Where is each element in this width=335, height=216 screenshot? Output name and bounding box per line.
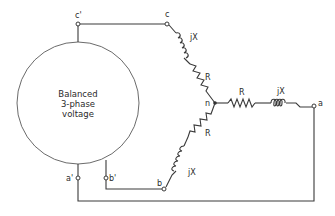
terminal-a-prime — [76, 176, 80, 180]
terminal-b-prime — [104, 176, 108, 180]
label-phase-a-jx: jX — [276, 87, 285, 96]
label-c-prime: c' — [75, 11, 82, 20]
source-label-line2: 3-phase — [61, 99, 95, 109]
label-n: n — [205, 99, 210, 108]
y-connected-load-circuit: Balanced 3-phase voltage c' c jX R n a — [0, 0, 335, 216]
label-phase-c-jx: jX — [189, 33, 198, 42]
label-b: b — [157, 179, 162, 188]
a-prime-to-a-wire — [78, 108, 314, 201]
phase-a-tail-wire — [286, 103, 312, 107]
label-phase-b-jx: jX — [187, 168, 196, 177]
terminal-b — [162, 187, 166, 191]
source-label-line1: Balanced — [58, 89, 97, 99]
phase-b-inductor-icon — [172, 146, 184, 171]
label-c: c — [165, 10, 169, 19]
source-label-line3: voltage — [62, 109, 94, 119]
phase-a-inductor-icon — [271, 99, 285, 106]
balanced-3-phase-source: Balanced 3-phase voltage — [17, 42, 139, 164]
label-phase-c-r: R — [205, 73, 211, 82]
phase-a-line: a' — [66, 108, 314, 201]
label-b-prime: b' — [109, 174, 116, 183]
phase-b-branch: b R jX — [157, 103, 215, 191]
label-phase-b-r: R — [205, 129, 211, 138]
phase-c-lead — [169, 25, 176, 33]
phase-a-branch: a R jX — [215, 87, 323, 108]
label-phase-a-r: R — [239, 88, 245, 97]
label-a: a — [318, 99, 323, 108]
label-a-prime: a' — [66, 174, 73, 183]
terminal-c-prime — [76, 22, 80, 26]
phase-b-mid-wire — [184, 137, 188, 146]
phase-c-mid-wire — [184, 58, 190, 64]
phase-b-lead — [166, 171, 176, 187]
phase-a-resistor-icon — [228, 99, 255, 107]
phase-b-resistor-icon — [188, 103, 215, 137]
phase-c-inductor-icon — [176, 33, 188, 58]
terminal-a — [312, 104, 316, 108]
phase-c-line: c' c — [75, 10, 169, 42]
phase-b-line: b' — [104, 160, 162, 189]
phase-c-branch: jX R — [169, 25, 215, 103]
phase-c-resistor-icon — [190, 64, 215, 103]
terminal-c — [165, 22, 169, 26]
